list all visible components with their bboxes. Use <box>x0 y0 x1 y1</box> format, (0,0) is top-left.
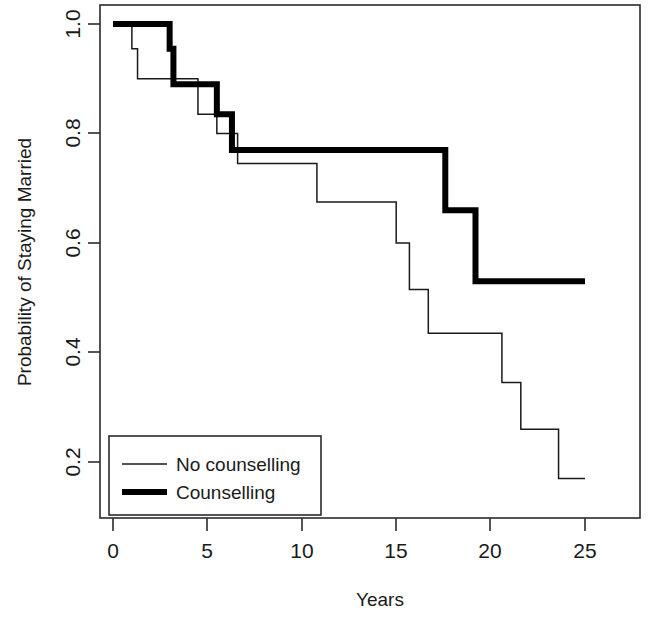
x-axis-title: Years <box>356 589 404 610</box>
y-tick-label-1.0: 1.0 <box>61 9 84 38</box>
series-line-counselling <box>113 24 585 281</box>
y-axis-ticks <box>88 24 100 462</box>
x-axis-ticks <box>113 518 585 531</box>
legend-box <box>109 436 321 515</box>
plot-canvas: 1.0 0.8 0.6 0.4 0.2 Probability of Stayi… <box>0 0 666 620</box>
data-curves <box>113 24 585 478</box>
y-tick-label-0.8: 0.8 <box>61 118 84 147</box>
y-tick-label-0.6: 0.6 <box>61 228 84 257</box>
chart-legend[interactable]: No counselling Counselling <box>109 436 321 515</box>
x-tick-label-25: 25 <box>573 539 596 562</box>
y-tick-label-0.4: 0.4 <box>61 337 84 367</box>
y-axis-title: Probability of Staying Married <box>14 138 35 386</box>
survival-chart-figure: 1.0 0.8 0.6 0.4 0.2 Probability of Stayi… <box>0 0 666 620</box>
legend-label-counselling: Counselling <box>176 482 275 503</box>
series-line-no-counselling <box>113 24 585 478</box>
y-axis-tick-labels: 1.0 0.8 0.6 0.4 0.2 <box>61 9 84 476</box>
legend-label-no-counselling: No counselling <box>176 454 301 475</box>
x-tick-label-15: 15 <box>384 539 407 562</box>
y-tick-label-0.2: 0.2 <box>61 447 84 476</box>
x-tick-label-0: 0 <box>107 539 119 562</box>
x-tick-label-5: 5 <box>201 539 213 562</box>
x-axis-tick-labels: 0 5 10 15 20 25 <box>107 539 597 562</box>
x-tick-label-10: 10 <box>290 539 313 562</box>
x-tick-label-20: 20 <box>478 539 501 562</box>
